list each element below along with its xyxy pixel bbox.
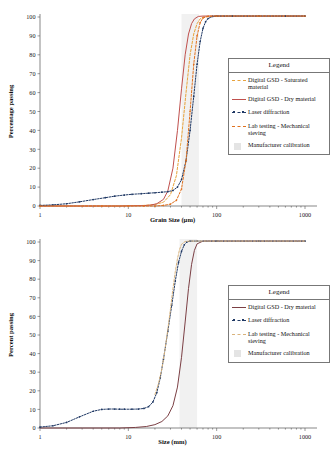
series-marker	[52, 204, 54, 206]
series-marker	[163, 205, 165, 207]
series-marker	[189, 111, 191, 113]
series-marker	[161, 191, 163, 193]
series-marker	[156, 392, 158, 394]
series-marker	[154, 205, 156, 207]
y-tick-label: 80	[29, 51, 35, 58]
legend-item: Laser diffraction	[232, 108, 327, 117]
legend-bottom-items: Digital GSD - Dry materialLaser diffract…	[229, 300, 329, 362]
series-marker	[148, 406, 150, 408]
x-tick-label: 100	[212, 433, 221, 440]
x-tick-label: 1	[38, 211, 41, 218]
series-marker	[167, 191, 169, 193]
series-marker	[196, 35, 198, 37]
series-marker	[202, 27, 204, 29]
series-marker	[114, 195, 116, 197]
series-marker	[131, 193, 133, 195]
y-tick-label: 20	[29, 164, 35, 171]
legend-marker	[233, 111, 235, 113]
x-tick-label: 100	[212, 211, 221, 218]
legend-line	[232, 126, 246, 127]
series-marker	[101, 409, 103, 411]
legend-item-label: Lab testing - Mechanical sieving	[248, 122, 327, 137]
series-marker	[131, 408, 133, 410]
y-tick-label: 40	[29, 350, 35, 357]
legend-item: Digital GSD - Dry material	[232, 95, 327, 104]
series-marker	[207, 16, 209, 18]
legend-key-dashed-icon	[232, 123, 246, 131]
series-marker	[199, 41, 201, 43]
legend-top: Legend Digital GSD - Saturated materialD…	[228, 58, 330, 155]
legend-key-swatch-icon	[232, 350, 246, 358]
legend-bottom-title: Legend	[229, 286, 329, 300]
legend-key-dashed-icon	[232, 77, 246, 85]
series-marker	[189, 130, 191, 132]
legend-item-label: Digital GSD - Saturated material	[248, 76, 327, 91]
legend-item: Digital GSD - Dry material	[232, 303, 327, 312]
series-marker	[181, 188, 183, 190]
legend-item: Digital GSD - Saturated material	[232, 76, 327, 91]
legend-line	[232, 334, 246, 335]
y-tick-label: 0	[32, 202, 35, 209]
y-tick-label: 90	[29, 32, 35, 39]
y-tick-label: 100	[26, 238, 35, 245]
series-marker	[66, 422, 68, 424]
manufacturer-calibration-band	[180, 239, 198, 428]
y-axis-title: Percentage passing	[7, 84, 14, 138]
legend-item-label: Digital GSD - Dry material	[248, 303, 327, 310]
series-marker	[154, 192, 156, 194]
y-tick-label: 90	[29, 257, 35, 264]
legend-swatch	[234, 350, 241, 357]
legend-top-title: Legend	[229, 59, 329, 73]
series-marker	[140, 193, 142, 195]
legend-item: Manufacturer calibration	[232, 141, 327, 150]
legend-key-solid-icon	[232, 304, 246, 312]
series-marker	[199, 22, 201, 24]
series-marker	[170, 203, 172, 205]
series-marker	[79, 201, 81, 203]
chart-bottom-size-mm: 10090807060504030201001101001000Size (mm…	[0, 230, 334, 459]
series-marker	[176, 199, 178, 201]
legend-item-label: Digital GSD - Dry material	[248, 95, 327, 102]
series-marker	[66, 203, 68, 205]
legend-bottom: Legend Digital GSD - Dry materialLaser d…	[228, 285, 330, 363]
series-marker	[185, 160, 187, 162]
legend-marker	[233, 319, 235, 321]
series-marker	[92, 199, 94, 201]
series-marker	[177, 186, 179, 188]
legend-item-label: Manufacturer calibration	[248, 141, 327, 148]
x-tick-label: 10	[125, 211, 131, 218]
series-marker	[114, 408, 116, 410]
series-marker	[127, 205, 129, 207]
series-marker	[143, 205, 145, 207]
y-tick-label: 30	[29, 146, 35, 153]
legend-item-label: Laser diffraction	[248, 108, 327, 115]
series-marker	[101, 205, 103, 207]
series-marker	[108, 408, 110, 410]
legend-item: Lab testing - Mechanical sieving	[232, 122, 327, 137]
y-tick-label: 60	[29, 313, 35, 320]
series-marker	[178, 262, 180, 264]
series-marker	[181, 179, 183, 181]
legend-key-dashed-icon	[232, 331, 246, 339]
y-tick-label: 0	[32, 424, 35, 431]
legend-marker	[242, 319, 244, 321]
y-tick-label: 100	[26, 13, 35, 20]
x-axis-title: Size (mm)	[158, 438, 186, 446]
series-marker	[205, 21, 207, 23]
x-tick-label: 1000	[299, 211, 311, 218]
series-marker	[119, 408, 121, 410]
series-marker	[202, 17, 204, 19]
legend-marker	[242, 111, 244, 113]
series-marker	[92, 410, 94, 412]
figure-page: 10090807060504030201001101001000Grain Si…	[0, 0, 334, 459]
series-marker	[174, 280, 176, 282]
legend-key-dash-dot-markers-icon	[232, 317, 246, 325]
series-marker	[39, 205, 41, 207]
legend-item: Laser diffraction	[232, 316, 327, 325]
series-marker	[193, 63, 195, 65]
series-marker	[216, 15, 218, 17]
series-marker	[196, 63, 198, 65]
x-tick-label: 1	[38, 433, 41, 440]
x-axis-title: Grain Size (µm)	[150, 216, 195, 224]
y-tick-label: 30	[29, 368, 35, 375]
